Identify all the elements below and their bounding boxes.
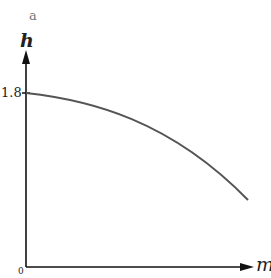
data-curve [26, 93, 248, 200]
x-axis [26, 263, 254, 271]
y-axis [22, 50, 30, 267]
chart-canvas [0, 0, 271, 278]
